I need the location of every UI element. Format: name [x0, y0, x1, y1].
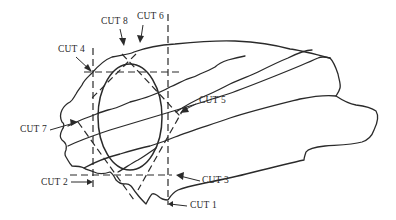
cut-3-arrowhead: [176, 172, 184, 180]
cut-6-label: CUT 6: [137, 12, 164, 22]
seam-line-4: [84, 96, 336, 168]
cut-line-6: [90, 54, 136, 100]
cut-2-label: CUT 2: [41, 178, 68, 188]
cut-3-label: CUT 3: [202, 176, 229, 186]
cut-5-label: CUT 5: [199, 96, 226, 106]
cut-8-label: CUT 8: [101, 17, 128, 27]
cut-8-arrowhead: [119, 38, 126, 46]
seam-line-1: [176, 50, 312, 112]
cut-line-8: [122, 54, 180, 116]
cut-line-7: [78, 122, 134, 200]
cut-2-arrowhead: [87, 179, 93, 185]
cut-7-label: CUT 7: [20, 125, 47, 135]
cut-4-label: CUT 4: [58, 45, 85, 55]
cut-line-5: [138, 108, 184, 190]
cut-1-arrowhead: [168, 201, 173, 207]
cut-7-arrowhead: [70, 119, 78, 126]
cut-1-label: CUT 1: [190, 201, 217, 211]
cut-6-arrowhead: [137, 35, 144, 43]
